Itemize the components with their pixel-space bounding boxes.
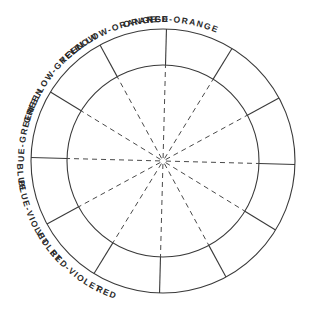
wheel-rings <box>31 29 295 293</box>
segment-divider <box>47 207 79 224</box>
label-text: BLUE-GREEN <box>0 0 37 162</box>
label-blue: BLUE <box>15 163 28 192</box>
segment-labels: YELLOWYELLOW-ORANGEORANGERED-ORANGEREDRE… <box>0 0 220 301</box>
dashed-spoke <box>163 65 165 158</box>
inner-ring <box>67 65 259 257</box>
dashed-spokes <box>67 65 259 257</box>
dashed-spoke <box>165 79 214 158</box>
label-text: YELLOW-GREEN <box>25 39 86 113</box>
segment-divider <box>94 243 113 274</box>
dashed-spoke <box>113 164 162 243</box>
dashed-spoke <box>81 111 160 160</box>
segment-divider <box>247 98 279 115</box>
label-blue-green: BLUE-GREEN <box>0 0 37 162</box>
dashed-spoke <box>166 115 248 159</box>
segment-divider <box>160 257 161 293</box>
dashed-spoke <box>67 158 160 160</box>
segment-divider <box>100 45 117 77</box>
dashed-spoke <box>79 162 161 206</box>
segment-divider <box>209 245 226 277</box>
segment-divider <box>166 29 167 65</box>
segment-divider <box>213 48 232 79</box>
segment-divider <box>50 92 81 111</box>
segment-divider <box>259 164 295 165</box>
segment-divider <box>245 211 276 230</box>
dashed-spoke <box>117 77 161 159</box>
dashed-spoke <box>164 164 208 246</box>
label-red-orange: RED-ORANGE <box>146 14 220 35</box>
outer-ring <box>31 29 295 293</box>
dashed-spoke <box>166 163 245 212</box>
dashed-spoke <box>160 164 162 257</box>
label-yellow-green: YELLOW-GREEN <box>25 39 86 113</box>
dashed-spoke <box>166 161 259 163</box>
label-text: BLUE <box>15 163 28 192</box>
label-text: RED-ORANGE <box>146 14 220 35</box>
segment-divider <box>31 158 67 159</box>
color-wheel-diagram: YELLOWYELLOW-ORANGEORANGERED-ORANGEREDRE… <box>0 0 321 320</box>
segment-dividers <box>31 29 295 293</box>
